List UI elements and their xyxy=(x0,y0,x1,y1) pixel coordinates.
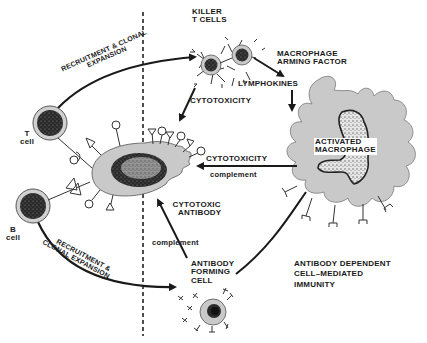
abfc-label-line3: CELL xyxy=(191,277,234,285)
killer-t-cells-label: KILLER T CELLS xyxy=(192,8,227,25)
t-cell-label: T cell xyxy=(20,130,34,147)
activated-label-line2: MACROPHAGE xyxy=(315,146,376,154)
b-cell-label: B cell xyxy=(6,226,20,243)
target-cell xyxy=(92,142,191,196)
killer-t-cell-2 xyxy=(232,45,252,65)
killer-t-cell-1 xyxy=(201,55,221,75)
lymphokines-label: LYMPHOKINES xyxy=(238,80,298,88)
arming-label-line2: ARMING FACTOR xyxy=(277,58,347,66)
t-cell xyxy=(33,106,67,140)
b-cell-label-line2: cell xyxy=(6,234,20,242)
t-cell-label-line2: cell xyxy=(20,138,34,146)
adcc-label-line1: ANTIBODY DEPENDENT xyxy=(294,259,391,269)
activated-macrophage-label: ACTIVATED MACROPHAGE xyxy=(314,138,377,155)
adcc-label: ANTIBODY DEPENDENT CELL–MEDIATED IMMUNIT… xyxy=(294,259,391,290)
b-cell xyxy=(16,189,50,223)
killer-label-line2: T CELLS xyxy=(192,16,227,24)
adcc-label-line2: CELL–MEDIATED xyxy=(294,269,391,279)
cytotoxicity-mid-label: CYTOTOXICITY xyxy=(206,155,267,163)
complement-mid-label: complement xyxy=(210,171,257,179)
immune-mechanisms-diagram: KILLER T CELLS MACROPHAGE ARMING FACTOR … xyxy=(0,0,427,343)
cytotoxicity-top-label: CYTOTOXICITY xyxy=(190,97,251,105)
adcc-label-line3: IMMUNITY xyxy=(294,280,391,290)
complement-low-label: complement xyxy=(152,239,199,247)
antibody-forming-cell-label: ANTIBODY FORMING CELL xyxy=(191,260,234,285)
cytotoxic-label-line2: ANTIBODY xyxy=(172,209,221,217)
macrophage-arming-factor-label: MACROPHAGE ARMING FACTOR xyxy=(277,50,347,67)
antibody-forming-cell xyxy=(200,299,226,325)
cytotoxic-antibody-label: CYTOTOXIC ANTIBODY xyxy=(172,201,221,218)
